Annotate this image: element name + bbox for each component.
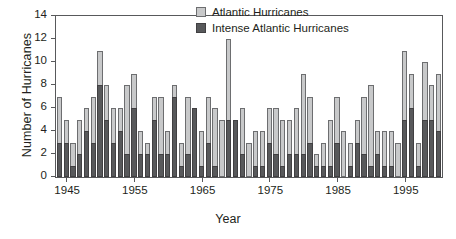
bars-container xyxy=(56,16,442,177)
bar-total xyxy=(395,143,400,178)
legend-item-intense: Intense Atlantic Hurricanes xyxy=(196,21,349,35)
bar-group xyxy=(152,16,157,177)
bar-intense xyxy=(416,166,421,178)
bar-intense xyxy=(260,166,265,178)
bar-group xyxy=(124,16,129,177)
bar-group xyxy=(307,16,312,177)
bar-group xyxy=(111,16,116,177)
bar-intense xyxy=(131,108,136,177)
bar-intense xyxy=(368,166,373,178)
y-tick-label: 14 xyxy=(34,8,47,20)
y-tick-label: 0 xyxy=(41,169,47,181)
bar-group xyxy=(334,16,339,177)
bar-group xyxy=(416,16,421,177)
bar-intense xyxy=(138,154,143,177)
bar-intense xyxy=(145,154,150,177)
bar-group xyxy=(429,16,434,177)
bar-group xyxy=(64,16,69,177)
bar-intense xyxy=(158,154,163,177)
x-tick-label: 1995 xyxy=(393,184,419,196)
x-tick: 1975 xyxy=(269,177,270,182)
legend-label-total: Atlantic Hurricanes xyxy=(212,6,309,18)
bar-intense xyxy=(233,120,238,178)
y-tick: 8 xyxy=(51,84,56,85)
bar-intense xyxy=(165,154,170,177)
bar-group xyxy=(70,16,75,177)
bar-intense xyxy=(212,166,217,178)
bar-group xyxy=(287,16,292,177)
y-axis-title: Number of Hurricanes xyxy=(20,5,34,185)
y-tick: 6 xyxy=(51,107,56,108)
bar-group xyxy=(402,16,407,177)
bar-intense xyxy=(172,97,177,178)
bar-intense xyxy=(328,166,333,178)
bar-intense xyxy=(124,154,129,177)
bar-group xyxy=(165,16,170,177)
bar-group xyxy=(118,16,123,177)
bar-intense xyxy=(280,166,285,178)
bar-intense xyxy=(226,120,231,178)
y-tick: 4 xyxy=(51,130,56,131)
bar-intense xyxy=(179,166,184,178)
bar-group xyxy=(91,16,96,177)
bar-group xyxy=(145,16,150,177)
y-tick-label: 12 xyxy=(34,31,47,43)
bar-group xyxy=(348,16,353,177)
x-tick: 1985 xyxy=(337,177,338,182)
bar-intense xyxy=(152,120,157,178)
bar-intense xyxy=(240,154,245,177)
bar-total xyxy=(368,85,373,177)
y-tick: 14 xyxy=(51,15,56,16)
x-tick-label: 1975 xyxy=(258,184,284,196)
bar-group xyxy=(341,16,346,177)
bar-intense xyxy=(267,143,272,178)
bar-intense xyxy=(97,85,102,177)
bar-group xyxy=(321,16,326,177)
legend-item-total: Atlantic Hurricanes xyxy=(196,5,349,19)
bar-intense xyxy=(253,166,258,178)
bar-intense xyxy=(294,154,299,177)
bar-intense xyxy=(118,131,123,177)
bar-group xyxy=(226,16,231,177)
bar-intense xyxy=(314,166,319,178)
bar-group xyxy=(57,16,62,177)
bar-intense xyxy=(206,143,211,178)
x-tick-label: 1955 xyxy=(122,184,148,196)
bar-group xyxy=(199,16,204,177)
bar-intense xyxy=(301,154,306,177)
bar-group xyxy=(77,16,82,177)
bar-intense xyxy=(185,154,190,177)
bar-group xyxy=(368,16,373,177)
bar-intense xyxy=(199,166,204,178)
bar-intense xyxy=(361,154,366,177)
legend-swatch-total-icon xyxy=(196,7,206,17)
x-axis-title: Year xyxy=(0,212,456,226)
bar-group xyxy=(294,16,299,177)
bar-group xyxy=(361,16,366,177)
bar-intense xyxy=(273,154,278,177)
bar-intense xyxy=(287,154,292,177)
bar-group xyxy=(131,16,136,177)
bar-group xyxy=(179,16,184,177)
y-tick: 10 xyxy=(51,61,56,62)
bar-group xyxy=(436,16,441,177)
y-tick-label: 10 xyxy=(34,54,47,66)
bar-intense xyxy=(375,154,380,177)
bar-group xyxy=(409,16,414,177)
bar-group xyxy=(280,16,285,177)
bar-group xyxy=(212,16,217,177)
bar-group xyxy=(301,16,306,177)
bar-group xyxy=(192,16,197,177)
bar-group xyxy=(138,16,143,177)
bar-group xyxy=(273,16,278,177)
bar-intense xyxy=(321,166,326,178)
y-tick-label: 2 xyxy=(41,146,47,158)
x-tick: 1955 xyxy=(134,177,135,182)
bar-total xyxy=(246,143,251,178)
hurricane-bar-chart: Number of Hurricanes 02468101214 1945195… xyxy=(0,0,456,239)
bar-intense xyxy=(70,166,75,178)
bar-total xyxy=(341,131,346,177)
bar-group xyxy=(267,16,272,177)
y-tick: 12 xyxy=(51,38,56,39)
x-tick-label: 1985 xyxy=(325,184,351,196)
